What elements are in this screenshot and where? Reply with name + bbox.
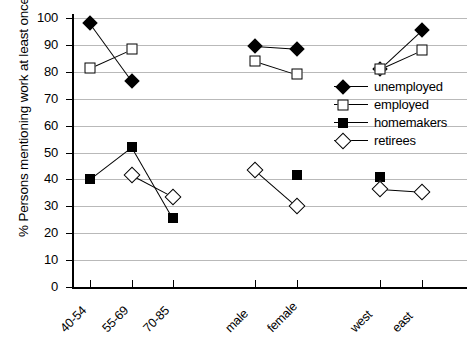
chart-root: % Persons mentioning work at least once …: [0, 0, 467, 341]
y-tick-label: 30: [28, 199, 58, 212]
x-tick-label: 55-69: [100, 304, 131, 335]
data-point-unemployed: [247, 38, 263, 54]
y-tick-label: 70: [28, 92, 58, 105]
x-tick-label: female: [265, 300, 300, 335]
y-tick-label: 80: [28, 65, 58, 78]
data-point-retirees: [165, 188, 182, 205]
legend-label: employed: [374, 96, 429, 113]
data-point-employed: [127, 43, 138, 54]
data-point-employed: [292, 69, 303, 80]
y-tick-label: 90: [28, 38, 58, 51]
y-tick-label: 100: [28, 11, 58, 24]
legend-label: homemakers: [374, 114, 447, 131]
legend-item: employed: [330, 96, 462, 114]
y-tick-label: 0: [28, 280, 58, 293]
series-line-retirees: [254, 170, 297, 207]
legend-marker-open-diamond-icon: [335, 133, 352, 150]
data-point-employed: [85, 62, 96, 73]
x-tick-label: 70-85: [141, 304, 172, 335]
legend-item: retirees: [330, 132, 462, 150]
data-point-unemployed: [82, 16, 98, 32]
y-tick-label: 20: [28, 226, 58, 239]
plot-area: [73, 18, 467, 287]
data-point-unemployed: [289, 41, 305, 57]
legend-label: unemployed: [374, 78, 443, 95]
x-tick-label: male: [223, 307, 251, 335]
data-point-employed: [250, 56, 261, 67]
legend-marker-open-square-icon: [338, 100, 349, 111]
legend-item: unemployed: [330, 78, 462, 96]
data-point-retirees: [414, 183, 431, 200]
data-point-employed: [375, 64, 386, 75]
legend-marker-filled-diamond-icon: [335, 79, 351, 95]
data-point-employed: [417, 45, 428, 56]
y-tick-label: 50: [28, 146, 58, 159]
series-line-homemakers: [131, 147, 173, 219]
y-tick-label: 10: [28, 253, 58, 266]
data-point-homemakers: [292, 170, 302, 180]
legend-marker-filled-square-icon: [338, 118, 348, 128]
x-tick-label: 40-54: [58, 304, 89, 335]
y-tick-label: 60: [28, 119, 58, 132]
x-tick-label: east: [390, 310, 415, 335]
data-point-homemakers: [85, 174, 95, 184]
y-tick-label: 40: [28, 172, 58, 185]
data-point-homemakers: [127, 142, 137, 152]
chart-legend: unemployedemployedhomemakersretirees: [330, 78, 462, 150]
legend-item: homemakers: [330, 114, 462, 132]
data-point-homemakers: [168, 213, 178, 223]
legend-label: retirees: [374, 132, 416, 149]
data-point-retirees: [124, 167, 141, 184]
x-tick-label: west: [348, 308, 375, 335]
data-point-retirees: [372, 180, 389, 197]
